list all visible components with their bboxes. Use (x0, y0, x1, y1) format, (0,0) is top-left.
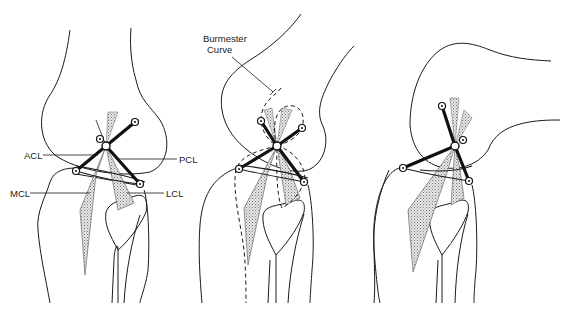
label-lcl: LCL (166, 188, 183, 199)
panel-middle: Burmester Curve (199, 14, 389, 303)
label-pcl: PCL (179, 154, 197, 165)
fibula-shaft (124, 215, 140, 303)
label-burmester-line1: Burmester (203, 33, 247, 44)
tibia-outline (374, 168, 405, 303)
pin-icon (439, 103, 446, 110)
pin-icon (97, 136, 104, 143)
pin-icon (132, 119, 139, 126)
pin-icon (299, 125, 306, 132)
label-acl: ACL (24, 150, 42, 161)
panel-left: ACL PCL MCL LCL (10, 28, 197, 303)
label-burmester-line2: Curve (207, 44, 232, 55)
tibia-lateral-edge (140, 190, 149, 303)
fibula-outline (106, 195, 147, 303)
fibula-shaft (288, 214, 304, 303)
lcl-ligament (106, 146, 134, 210)
pin-icon (400, 165, 407, 172)
label-mcl: MCL (10, 188, 30, 199)
pin-icon (466, 178, 473, 185)
knee-linkage-diagram: ACL PCL MCL LCL (0, 0, 573, 311)
panel-right (374, 43, 560, 303)
pin-icon (73, 168, 80, 175)
center-joint-icon (451, 142, 459, 150)
fibula-outline (263, 200, 304, 303)
tibia-lateral-edge (308, 185, 313, 303)
femur-outline (410, 43, 560, 168)
tibia-outline (38, 168, 80, 303)
pin-icon (137, 181, 144, 188)
pin-icon (236, 166, 243, 173)
mcl-ligament (408, 146, 455, 272)
burmester-arrow (232, 57, 273, 92)
pin-icon (301, 179, 308, 186)
pin-icon (460, 137, 467, 144)
pin-icon (258, 118, 265, 125)
tibia-outline (199, 168, 240, 303)
tibia-lateral-edge (472, 185, 477, 303)
center-joint-icon (102, 142, 110, 150)
center-joint-icon (273, 142, 281, 150)
fibula-outline (430, 200, 469, 303)
